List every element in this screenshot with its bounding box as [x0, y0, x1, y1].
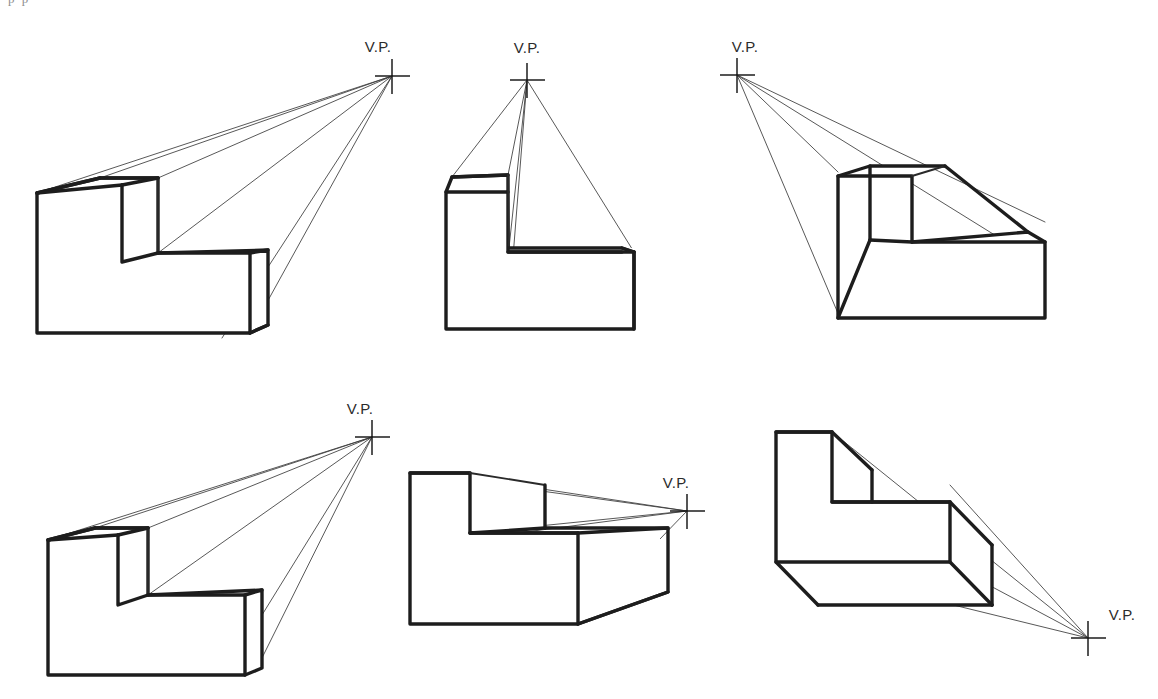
figure-6: V.P.	[776, 432, 1135, 656]
figure-1: V.P.	[37, 38, 410, 338]
figure-3: V.P.	[720, 38, 1045, 318]
perspective-drawing-canvas: V.P.	[0, 0, 1158, 699]
figure-3-block	[838, 166, 1045, 318]
figure-5-block	[410, 473, 668, 624]
vp-label-1: V.P.	[365, 38, 392, 55]
figure-1-vanishing-point: V.P.	[365, 38, 410, 94]
figure-2: V.P.	[446, 39, 634, 329]
figure-6-vanishing-point: V.P.	[1071, 606, 1135, 656]
figure-6-block	[776, 432, 992, 605]
figure-5-vanishing-point: V.P.	[663, 474, 705, 529]
figure-4-vanishing-point: V.P.	[347, 400, 390, 455]
vp-label-6: V.P.	[1109, 606, 1136, 623]
vp-label-4: V.P.	[347, 400, 374, 417]
cropped-header-text: p p	[8, 0, 30, 7]
figure-2-vanishing-point: V.P.	[510, 39, 545, 98]
vp-label-5: V.P.	[663, 474, 690, 491]
figure-5: V.P.	[410, 473, 705, 624]
figure-4: V.P.	[48, 400, 390, 675]
drawing-sheet: p p	[0, 0, 1158, 699]
vp-label-3: V.P.	[732, 38, 759, 55]
figure-4-block	[48, 528, 262, 675]
figure-2-block	[446, 175, 634, 329]
figure-1-block	[37, 178, 268, 333]
vp-label-2: V.P.	[514, 39, 541, 56]
